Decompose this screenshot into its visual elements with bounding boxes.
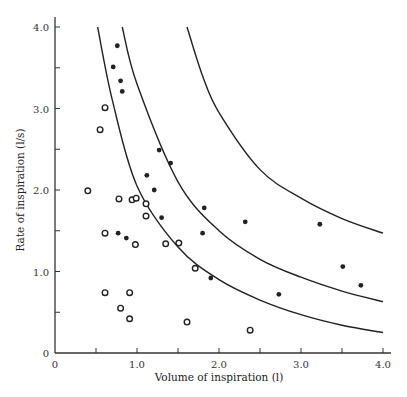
boundary-curve: [122, 27, 383, 302]
open-point: [85, 188, 91, 194]
open-point: [97, 127, 103, 133]
open-point: [127, 316, 133, 322]
y-tick-label: 3.0: [33, 104, 49, 115]
open-point: [102, 290, 108, 296]
open-point: [247, 327, 253, 333]
y-tick-label: 2.0: [33, 185, 49, 196]
filled-point: [358, 283, 363, 288]
filled-point: [200, 231, 205, 236]
y-tick-label: 1.0: [33, 267, 49, 278]
filled-point: [159, 215, 164, 220]
boundary-curve: [187, 27, 383, 233]
open-point: [176, 240, 182, 246]
data-points: [85, 43, 363, 333]
open-point: [118, 305, 124, 311]
x-tick-label: 0: [52, 359, 58, 370]
filled-point: [118, 78, 123, 83]
boundary-curve: [98, 27, 383, 333]
open-point: [184, 319, 190, 325]
open-point: [133, 195, 139, 201]
y-tick-label: 0: [43, 348, 49, 359]
filled-point: [116, 231, 121, 236]
open-point: [102, 230, 108, 236]
filled-point: [111, 65, 116, 70]
filled-point: [144, 173, 149, 178]
open-point: [192, 265, 198, 271]
filled-point: [115, 43, 120, 48]
filled-point: [120, 89, 125, 94]
y-axis-title: Rate of inspiration (l/s): [14, 128, 26, 251]
open-point: [143, 201, 149, 207]
open-point: [102, 105, 108, 111]
filled-point: [208, 276, 213, 281]
y-tick-label: 4.0: [33, 22, 49, 33]
filled-point: [157, 148, 162, 153]
open-point: [127, 290, 133, 296]
x-tick-label: 1.0: [129, 359, 145, 370]
open-point: [143, 213, 149, 219]
x-axis-title: Volume of inspiration (l): [154, 371, 284, 383]
filled-point: [168, 161, 173, 166]
open-point: [163, 241, 169, 247]
filled-point: [243, 219, 248, 224]
filled-point: [152, 188, 157, 193]
filled-point: [276, 292, 281, 297]
filled-point: [340, 264, 345, 269]
boundary-curves: [98, 27, 383, 333]
filled-point: [202, 206, 207, 211]
x-tick-label: 2.0: [211, 359, 227, 370]
scatter-chart: 01.02.03.04.001.02.03.04.0 Volume of ins…: [0, 0, 407, 397]
x-tick-label: 3.0: [293, 359, 309, 370]
filled-point: [317, 222, 322, 227]
filled-point: [124, 236, 129, 241]
x-tick-label: 4.0: [375, 359, 391, 370]
open-point: [116, 196, 122, 202]
open-point: [133, 242, 139, 248]
